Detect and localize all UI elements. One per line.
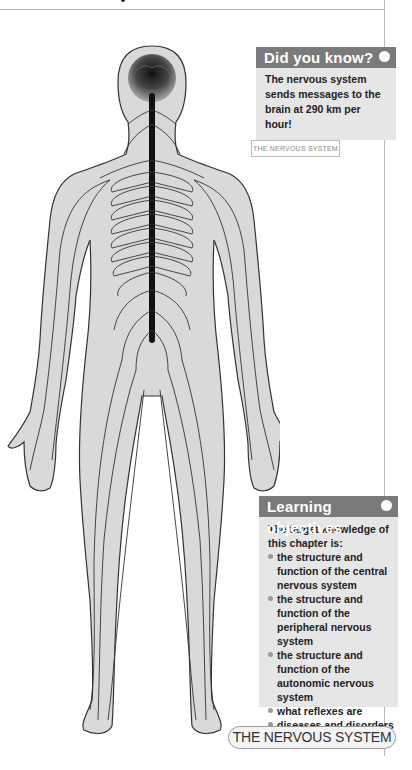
bullet-icon: [268, 596, 273, 601]
did-you-know-box: Did you know? The nervous system sends m…: [256, 47, 396, 140]
bullet-icon: [268, 708, 273, 713]
list-item: what reflexes are: [268, 704, 394, 718]
chapter-tab: THE NERVOUS SYSTEM: [228, 726, 396, 749]
did-you-know-heading: Did you know?: [256, 47, 396, 68]
list-item: the structure and function of the centra…: [268, 550, 394, 592]
dot-icon: [381, 500, 392, 511]
list-item: the structure and function of the autono…: [268, 648, 394, 704]
figure-label: THE NERVOUS SYSTEM: [251, 140, 340, 157]
learning-objectives-heading: Learning objectives: [259, 496, 398, 517]
heading-descender: [121, 0, 125, 2]
top-divider: [0, 9, 384, 10]
nervous-system-figure: [0, 40, 280, 760]
did-you-know-text: The nervous system sends messages to the…: [256, 68, 396, 140]
body-diagram-icon: [0, 40, 280, 760]
bullet-icon: [268, 652, 273, 657]
learning-objectives-box: Learning objectives The target knowledge…: [259, 496, 398, 707]
bullet-icon: [268, 554, 273, 559]
dot-icon: [379, 51, 390, 62]
objectives-list: the structure and function of the centra…: [259, 550, 398, 746]
list-item: the structure and function of the periph…: [268, 592, 394, 648]
